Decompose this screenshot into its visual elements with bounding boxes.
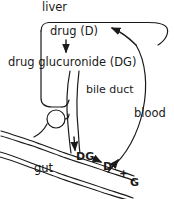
gut-upper-wall-outer xyxy=(1,131,134,176)
label-gut-dg: DG xyxy=(76,151,94,162)
label-drug-glucuronide: drug glucuronide (DG) xyxy=(8,57,136,69)
label-bile-duct: bile duct xyxy=(86,84,134,95)
label-gut-plus: + xyxy=(119,168,128,179)
liver-outline-right xyxy=(148,23,168,46)
arrow-dg-to-d-g xyxy=(93,158,101,162)
arrow-blood-to-liver xyxy=(112,28,136,45)
label-liver: liver xyxy=(42,2,67,14)
gallbladder xyxy=(47,110,65,128)
label-gut: gut xyxy=(34,163,53,175)
arrow-bile-to-gut xyxy=(74,137,75,150)
gut-lower-wall-outer xyxy=(0,152,133,198)
label-gut-d: D xyxy=(103,161,112,172)
hepatic-duct-branch xyxy=(62,100,69,107)
bile-duct-right-wall xyxy=(77,71,80,153)
label-gut-g: G xyxy=(130,177,139,188)
lower-duct-left xyxy=(34,124,47,137)
label-drug: drug (D) xyxy=(50,26,98,38)
bile-duct-left-wall xyxy=(67,71,71,153)
label-blood: blood xyxy=(134,108,166,120)
liver-outline-left xyxy=(41,31,62,107)
enterohepatic-circulation-diagram: liver drug (D) drug glucuronide (DG) bil… xyxy=(0,0,174,199)
